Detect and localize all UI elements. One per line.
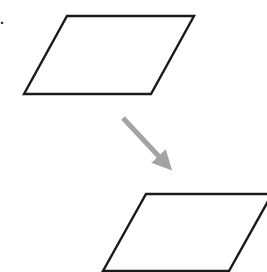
original-parallelogram <box>24 16 194 94</box>
label-fragment: · <box>0 16 5 30</box>
diagram-canvas: · <box>0 0 267 272</box>
translation-arrow <box>123 118 166 164</box>
translated-parallelogram <box>103 194 267 271</box>
diagram-svg <box>0 0 267 272</box>
